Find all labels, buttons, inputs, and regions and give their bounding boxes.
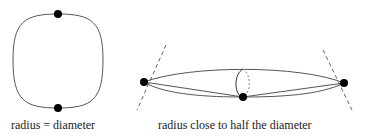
- left-dashed-line: [137, 45, 166, 110]
- caption-right: radius close to half the diameter: [158, 118, 312, 133]
- right-point: [340, 79, 348, 87]
- caption-left: radius = diameter: [11, 118, 95, 133]
- round-loop: [13, 14, 103, 108]
- upper-arc: [144, 69, 344, 83]
- right-dashed-line: [323, 50, 352, 110]
- left-point: [140, 78, 148, 86]
- top-point: [54, 10, 62, 18]
- cross-section-back: [243, 69, 249, 96]
- middle-point: [239, 93, 247, 101]
- bottom-point: [54, 104, 62, 112]
- diagram-canvas: radius = diameter radius close to half t…: [0, 0, 366, 140]
- cross-section-front: [236, 69, 243, 97]
